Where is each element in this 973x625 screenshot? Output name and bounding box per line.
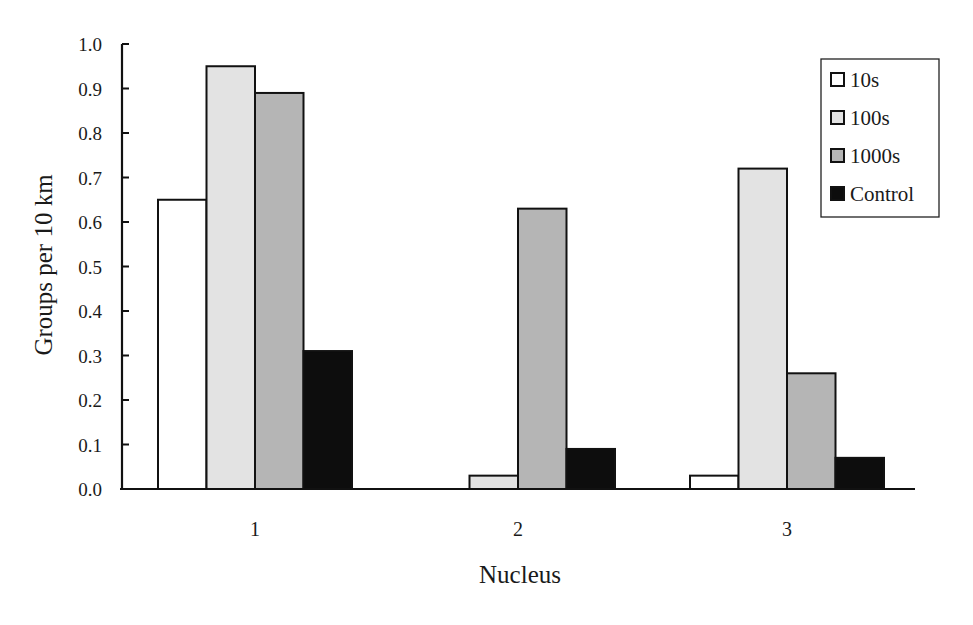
legend-label: 10s [850,68,879,92]
legend: 10s100s1000sControl [821,59,939,217]
bar-1000s-nucleus-1 [255,93,304,489]
bar-100s-nucleus-3 [739,169,788,489]
legend-swatch-control [831,187,844,200]
x-axis: 123 [120,489,915,540]
y-tick-label: 0.6 [78,212,102,233]
y-tick-label: 1.0 [78,34,102,55]
legend-label: 100s [850,106,890,130]
y-tick-label: 0.2 [78,390,102,411]
bar-1000s-nucleus-2 [518,209,567,489]
x-axis-title: Nucleus [479,561,561,588]
bar-control-nucleus-1 [304,351,353,489]
legend-label: Control [850,182,914,206]
y-axis: 0.00.10.20.30.40.50.60.70.80.91.0 [78,34,129,500]
bar-10s-nucleus-3 [690,476,739,489]
bar-100s-nucleus-2 [470,476,519,489]
y-tick-label: 0.8 [78,123,102,144]
y-tick-label: 0.3 [78,346,102,367]
y-tick-label: 0.4 [78,301,102,322]
legend-swatch-1000s [831,149,844,162]
y-tick-label: 0.1 [78,435,102,456]
bar-control-nucleus-3 [836,458,885,489]
y-tick-label: 0.0 [78,479,102,500]
bar-control-nucleus-2 [567,449,616,489]
legend-swatch-10s [831,73,844,86]
bars [158,66,884,489]
bar-chart: 0.00.10.20.30.40.50.60.70.80.91.0 123 Gr… [0,0,973,625]
bar-1000s-nucleus-3 [787,373,836,489]
bar-10s-nucleus-1 [158,200,207,489]
legend-label: 1000s [850,144,900,168]
y-tick-label: 0.5 [78,257,102,278]
bar-100s-nucleus-1 [207,66,256,489]
x-tick-label: 3 [782,518,792,540]
legend-swatch-100s [831,111,844,124]
x-tick-label: 2 [513,518,523,540]
y-tick-label: 0.9 [78,79,102,100]
y-axis-title: Groups per 10 km [30,174,57,356]
x-tick-label: 1 [250,518,260,540]
y-tick-label: 0.7 [78,168,102,189]
